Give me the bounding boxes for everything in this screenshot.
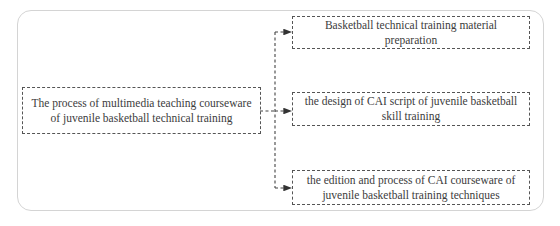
step2-label: the design of CAI script of juvenile bas… — [299, 94, 523, 124]
step1-label: Basketball technical training material p… — [299, 18, 523, 48]
source-node: The process of multimedia teaching cours… — [22, 87, 261, 134]
step3-label: the edition and process of CAI coursewar… — [299, 173, 523, 203]
target-node-step2: the design of CAI script of juvenile bas… — [292, 92, 530, 126]
target-node-step3: the edition and process of CAI coursewar… — [292, 170, 530, 205]
source-node-label: The process of multimedia teaching cours… — [29, 96, 254, 126]
target-node-step1: Basketball technical training material p… — [292, 16, 530, 49]
